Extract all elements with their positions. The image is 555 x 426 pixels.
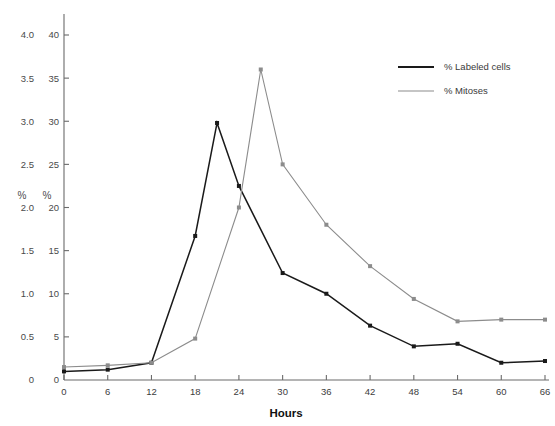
legend-label: % Labeled cells xyxy=(444,61,511,72)
x-tick-label: 48 xyxy=(409,386,420,397)
y-tick-label-left: 2.0 xyxy=(21,202,34,213)
data-point-marker xyxy=(106,363,110,367)
data-point-marker xyxy=(412,344,416,348)
series-mitoses xyxy=(62,68,547,370)
x-tick-label: 54 xyxy=(452,386,463,397)
line-chart: 00.51.01.52.02.53.03.54.0 05101520253035… xyxy=(0,0,555,426)
chart-legend: % Labeled cells% Mitoses xyxy=(398,61,511,96)
left-axis-ticks: 00.51.01.52.02.53.03.54.0 xyxy=(21,29,34,385)
x-tick-label: 6 xyxy=(105,386,110,397)
data-point-marker xyxy=(62,369,66,373)
data-series xyxy=(62,68,547,374)
data-point-marker xyxy=(456,342,460,346)
x-tick-label: 36 xyxy=(321,386,332,397)
data-point-marker xyxy=(543,359,547,363)
data-point-marker xyxy=(499,318,503,322)
y-tick-label-secondary: 10 xyxy=(48,288,59,299)
data-point-marker xyxy=(324,223,328,227)
x-tick-label: 66 xyxy=(540,386,551,397)
data-point-marker xyxy=(456,319,460,323)
y-tick-label-left: 3.0 xyxy=(21,116,34,127)
legend-label: % Mitoses xyxy=(444,85,488,96)
y-tick-label-secondary: 40 xyxy=(48,29,59,40)
y-tick-label-secondary: 5 xyxy=(54,331,59,342)
y-tick-label-secondary: 15 xyxy=(48,245,59,256)
y-tick-label-left: 1.5 xyxy=(21,245,34,256)
y-tick-label-left: 0 xyxy=(29,374,34,385)
data-point-marker xyxy=(281,271,285,275)
x-axis-title: Hours xyxy=(269,407,302,419)
data-point-marker xyxy=(237,206,241,210)
x-axis-ticks: 0612182430364248546066 xyxy=(61,375,550,397)
series-line xyxy=(64,70,545,368)
data-point-marker xyxy=(324,292,328,296)
data-point-marker xyxy=(237,184,241,188)
data-point-marker xyxy=(281,162,285,166)
data-point-marker xyxy=(215,121,219,125)
data-point-marker xyxy=(149,361,153,365)
y-tick-label-left: 4.0 xyxy=(21,29,34,40)
x-tick-label: 24 xyxy=(234,386,245,397)
data-point-marker xyxy=(62,365,66,369)
x-tick-label: 30 xyxy=(277,386,288,397)
x-tick-label: 0 xyxy=(61,386,66,397)
series-labeled-cells xyxy=(62,121,547,373)
y-tick-label-secondary: 20 xyxy=(48,202,59,213)
x-tick-label: 42 xyxy=(365,386,376,397)
y-tick-label-left: 1.0 xyxy=(21,288,34,299)
data-point-marker xyxy=(543,318,547,322)
y-tick-label-secondary: 35 xyxy=(48,73,59,84)
y-axis-label-secondary: % xyxy=(43,190,52,201)
data-point-marker xyxy=(259,68,263,72)
y-tick-label-left: 0.5 xyxy=(21,331,34,342)
y-tick-label-secondary: 30 xyxy=(48,116,59,127)
y-axis-label-left: % xyxy=(18,190,27,201)
data-point-marker xyxy=(368,324,372,328)
data-point-marker xyxy=(499,361,503,365)
data-point-marker xyxy=(106,368,110,372)
chart-figure: 00.51.01.52.02.53.03.54.0 05101520253035… xyxy=(0,0,555,426)
secondary-axis-ticks: 0510152025303540 xyxy=(48,29,69,385)
x-tick-label: 12 xyxy=(146,386,157,397)
data-point-marker xyxy=(193,234,197,238)
y-tick-label-secondary: 25 xyxy=(48,159,59,170)
x-tick-label: 60 xyxy=(496,386,507,397)
series-line xyxy=(64,123,545,371)
y-tick-label-secondary: 0 xyxy=(54,374,59,385)
x-tick-label: 18 xyxy=(190,386,201,397)
data-point-marker xyxy=(193,337,197,341)
y-tick-label-left: 2.5 xyxy=(21,159,34,170)
data-point-marker xyxy=(368,264,372,268)
y-tick-label-left: 3.5 xyxy=(21,73,34,84)
data-point-marker xyxy=(412,297,416,301)
